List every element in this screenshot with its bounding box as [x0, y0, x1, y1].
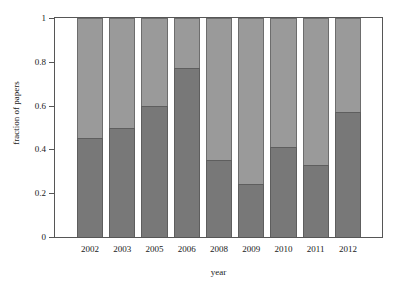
bar-segment-lower-2005	[141, 106, 167, 237]
chart-title	[0, 0, 403, 1]
x-tick-label-2003: 2003	[113, 244, 131, 254]
y-tick-mark-0.2	[49, 193, 55, 194]
bar-segment-upper-2003	[109, 18, 135, 128]
y-axis-title: fraction of papers	[11, 53, 21, 173]
y-tick-mark-0.6	[49, 106, 55, 107]
bar-segment-upper-2009	[238, 18, 264, 184]
chart-figure: fraction of papers 00.20.40.60.81 200220…	[0, 0, 403, 291]
x-tick-label-2010: 2010	[274, 244, 292, 254]
bar-segment-upper-2012	[335, 18, 361, 112]
x-tick-label-2002: 2002	[81, 244, 99, 254]
y-tick-label-0.2: 0.2	[35, 189, 46, 198]
bar-2003	[109, 18, 135, 237]
x-tick-label-2005: 2005	[146, 244, 164, 254]
bar-2008	[206, 18, 232, 237]
bar-segment-upper-2005	[141, 18, 167, 106]
bar-segment-upper-2006	[174, 18, 200, 68]
bar-2009	[238, 18, 264, 237]
x-tick-label-2012: 2012	[339, 244, 357, 254]
bar-segment-lower-2008	[206, 160, 232, 237]
bar-segment-upper-2011	[303, 18, 329, 165]
bar-segment-lower-2012	[335, 112, 361, 237]
y-tick-label-1: 1	[42, 14, 47, 23]
y-tick-mark-0	[49, 237, 55, 238]
x-tick-label-2006: 2006	[178, 244, 196, 254]
y-tick-label-0.6: 0.6	[35, 101, 46, 110]
y-tick-mark-0.4	[49, 149, 55, 150]
y-tick-label-0: 0	[42, 233, 47, 242]
x-tick-label-2008: 2008	[210, 244, 228, 254]
bar-segment-lower-2006	[174, 68, 200, 237]
bar-2002	[77, 18, 103, 237]
bar-2011	[303, 18, 329, 237]
y-tick-mark-1	[49, 18, 55, 19]
y-tick-label-0.4: 0.4	[35, 145, 46, 154]
y-tick-mark-0.8	[49, 62, 55, 63]
bar-segment-lower-2011	[303, 165, 329, 237]
x-tick-label-2009: 2009	[242, 244, 260, 254]
bar-segment-upper-2010	[270, 18, 296, 147]
bar-segment-lower-2010	[270, 147, 296, 237]
x-tick-label-2011: 2011	[307, 244, 325, 254]
bar-2012	[335, 18, 361, 237]
bar-2010	[270, 18, 296, 237]
bar-segment-lower-2003	[109, 128, 135, 238]
bar-2005	[141, 18, 167, 237]
bars-layer	[55, 18, 382, 237]
plot-area: 00.20.40.60.81	[54, 17, 383, 238]
bar-segment-upper-2008	[206, 18, 232, 160]
bar-segment-upper-2002	[77, 18, 103, 138]
bar-2006	[174, 18, 200, 237]
y-tick-label-0.8: 0.8	[35, 57, 46, 66]
bar-segment-lower-2002	[77, 138, 103, 237]
x-axis-title: year	[54, 267, 383, 277]
bar-segment-lower-2009	[238, 184, 264, 237]
